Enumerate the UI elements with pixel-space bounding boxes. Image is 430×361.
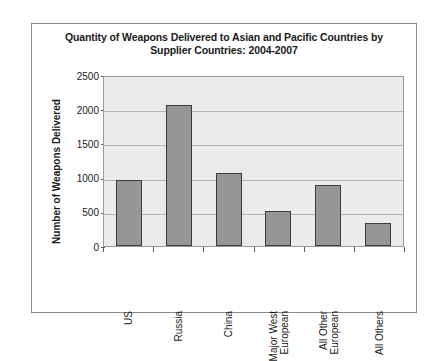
bar [265, 211, 291, 246]
x-axis-tick-label: China [223, 311, 234, 337]
x-axis-tick-label: Major WestEuropean [268, 311, 290, 361]
x-axis-tick-label-line: China [223, 311, 234, 337]
x-axis-tick-label: Russia [173, 311, 184, 342]
x-axis-tick-label-line: European [329, 311, 340, 354]
chart-title: Quantity of Weapons Delivered to Asian a… [40, 31, 408, 57]
x-axis-label-group: All OtherEuropean [304, 255, 354, 313]
x-axis-tick-mark [203, 247, 204, 252]
x-axis-tick-mark [354, 247, 355, 252]
chart-title-line-2: Supplier Countries: 2004-2007 [150, 44, 298, 56]
bar [166, 105, 192, 246]
x-axis-tick-label-line: Russia [173, 311, 184, 342]
y-axis-tick-label: 2000 [68, 105, 99, 116]
chart-container: Quantity of Weapons Delivered to Asian a… [31, 23, 417, 313]
y-axis-tick-label: 0 [68, 242, 99, 253]
bar [315, 185, 341, 246]
bar [365, 223, 391, 246]
bar [216, 173, 242, 246]
x-axis-tick-label: All Others [374, 311, 385, 355]
y-axis-tick-label: 1500 [68, 139, 99, 150]
y-axis-tick-labels: 05001000150020002500 [68, 70, 99, 253]
x-axis-tick-label-line: All Others [374, 311, 385, 355]
x-axis-ticks [103, 247, 404, 255]
x-axis-tick-mark [404, 247, 405, 252]
y-axis-tick-label: 2500 [68, 71, 99, 82]
x-axis-tick-mark [153, 247, 154, 252]
x-axis-tick-label: All OtherEuropean [318, 311, 340, 354]
y-axis-tick-label: 500 [68, 207, 99, 218]
y-axis-tick-label: 1000 [68, 173, 99, 184]
x-axis-tick-label-line: US [123, 311, 134, 325]
x-axis-label-group: China [203, 255, 253, 313]
x-axis-label-group: All Others [354, 255, 404, 313]
x-axis-tick-label: US [123, 311, 134, 325]
bar [116, 180, 142, 246]
x-axis-tick-labels: USRussiaChinaMajor WestEuropeanAll Other… [103, 255, 404, 313]
x-axis-label-group: US [103, 255, 153, 313]
bar-series [104, 77, 403, 246]
x-axis-tick-mark [304, 247, 305, 252]
y-axis-title: Number of Weapons Delivered [51, 92, 62, 252]
x-axis-tick-mark [103, 247, 104, 252]
plot-area [103, 76, 404, 247]
x-axis-label-group: Major WestEuropean [254, 255, 304, 313]
chart-title-line-1: Quantity of Weapons Delivered to Asian a… [65, 31, 383, 43]
x-axis-tick-label-line: All Other [318, 311, 329, 350]
x-axis-label-group: Russia [153, 255, 203, 313]
x-axis-tick-mark [254, 247, 255, 252]
x-axis-tick-label-line: European [279, 311, 290, 361]
x-axis-tick-label-line: Major West [268, 311, 279, 361]
